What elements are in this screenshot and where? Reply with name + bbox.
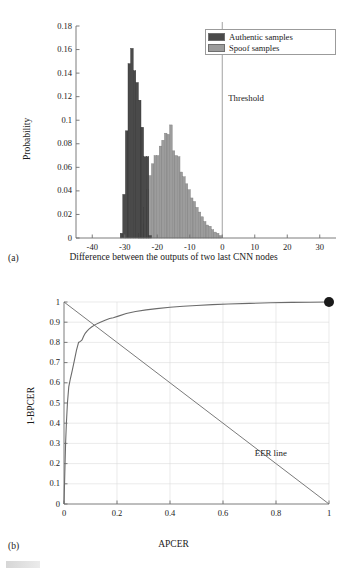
x-tick-label: 0.6 [208,508,238,518]
histogram-bar [167,134,170,238]
x-tick-label: 10 [238,242,272,252]
histogram-bar [216,233,219,238]
y-tick-label: 0.3 [34,438,60,448]
histogram-bar [198,212,201,238]
panel-a-histogram: Probability Difference between the outpu… [0,0,347,285]
histogram-bar [211,230,214,238]
y-tick-label: 0 [34,499,60,509]
bar-group-authentic [120,48,151,238]
legend-label-spoof: Spoof samples [229,43,279,53]
figure-container: Probability Difference between the outpu… [0,0,347,570]
histogram-bar [146,157,149,238]
x-axis-title-apcer: APCER [0,539,347,549]
histogram-bar [159,146,162,238]
histogram-bar [214,232,217,238]
x-tick-label: -30 [108,242,142,252]
histogram-bar [172,151,175,238]
legend-item-authentic: Authentic samples [208,31,332,42]
y-tick-label: 0.8 [34,337,60,347]
histogram-bar [203,222,206,238]
legend: Authentic samples Spoof samples [205,29,336,55]
histogram-bar [136,83,139,238]
y-tick-label: 0.2 [34,458,60,468]
histogram-bar [206,225,209,238]
x-tick-label: 0.4 [155,508,185,518]
legend-swatch-authentic [208,33,225,41]
histogram-bar [162,140,165,238]
y-axis-title-probability: Probability [22,118,32,160]
histogram-bar [180,172,183,238]
y-tick-label: 0.18 [42,21,72,31]
histogram-bar [120,233,123,238]
histogram-bar [141,127,144,238]
bar-group-spoof [138,125,221,238]
histogram-bar [123,194,126,238]
histogram-bar [157,156,160,238]
y-tick-label: 0.1 [42,115,72,125]
y-tick-label: 0 [42,233,72,243]
histogram-bar [164,133,167,238]
histogram-bar [138,100,141,238]
histogram-bar [183,177,186,238]
histogram-bar [188,190,191,238]
histogram-bar [154,156,157,238]
histogram-bar [151,164,154,238]
y-tick-label: 0.7 [34,357,60,367]
x-axis-title-difference: Difference between the outputs of two la… [0,252,347,262]
histogram-bar [185,184,188,238]
histogram-bar [125,131,128,238]
histogram-bar [209,226,212,238]
histogram-bar [190,198,193,238]
histogram-bar [133,71,136,238]
y-tick-label: 0.04 [42,185,72,195]
histogram-bar [170,125,173,238]
y-tick-label: 0.6 [34,377,60,387]
x-tick-label: 30 [303,242,337,252]
legend-swatch-spoof [208,44,225,52]
y-tick-label: 0.1 [34,478,60,488]
x-tick-label: 0.8 [261,508,291,518]
y-tick-label: 1 [34,297,60,307]
x-tick-label: 20 [270,242,304,252]
y-tick-label: 0.14 [42,68,72,78]
x-tick-label: 0 [205,242,239,252]
legend-item-spoof: Spoof samples [208,42,332,53]
x-tick-label: -40 [75,242,109,252]
y-tick-label: 0.06 [42,162,72,172]
x-tick-label: -10 [173,242,207,252]
histogram-bar [131,48,134,238]
panel-label-b: (b) [8,541,19,551]
x-tick-label: 0.2 [102,508,132,518]
y-tick-label: 0.4 [34,418,60,428]
histogram-bar [128,64,131,238]
histogram-bar [193,201,196,238]
x-tick-label: 1 [314,508,344,518]
y-tick-label: 0.02 [42,209,72,219]
histogram-bar [144,157,147,238]
eer-line-annotation: EER line [255,448,287,458]
y-tick-label: 0.12 [42,91,72,101]
y-tick-label: 0.5 [34,398,60,408]
page-artifact [6,561,40,568]
y-tick-label: 0.16 [42,44,72,54]
histogram-bar [196,207,199,238]
panel-b-roc: 1-BPCER APCER (b) EER line 00.20.40.60.8… [0,280,347,570]
legend-label-authentic: Authentic samples [229,32,293,42]
histogram-bar [201,217,204,238]
histogram-bar [175,156,178,238]
histogram-bar [177,157,180,238]
roc-endpoint-marker [324,297,334,307]
x-tick-label: -20 [140,242,174,252]
x-tick-label: 0 [49,508,79,518]
panel-label-a: (a) [8,253,19,263]
y-tick-label: 0.9 [34,317,60,327]
y-tick-label: 0.08 [42,138,72,148]
threshold-annotation: Threshold [228,93,264,103]
histogram-bar [149,176,152,238]
